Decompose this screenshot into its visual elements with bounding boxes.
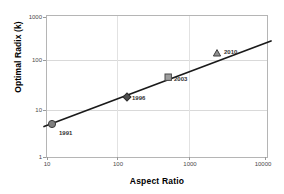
x-axis-title: Aspect Ratio — [46, 176, 268, 186]
grid-lines — [46, 15, 268, 157]
data-point-marker-2010 — [213, 50, 220, 56]
plot-frame — [47, 16, 268, 158]
axis-ticks — [43, 18, 266, 161]
chart-container: Optimal Radix (k) 1000 100 10 1 10 100 1… — [0, 0, 284, 194]
data-point-label-1996: 1996 — [132, 95, 145, 101]
data-point-label-2003: 2003 — [174, 76, 187, 82]
data-point-marker-1991 — [48, 120, 55, 127]
data-point-marker-2003 — [165, 74, 171, 80]
data-point-label-2010: 2010 — [224, 49, 237, 55]
data-point-label-1991: 1991 — [59, 130, 72, 136]
